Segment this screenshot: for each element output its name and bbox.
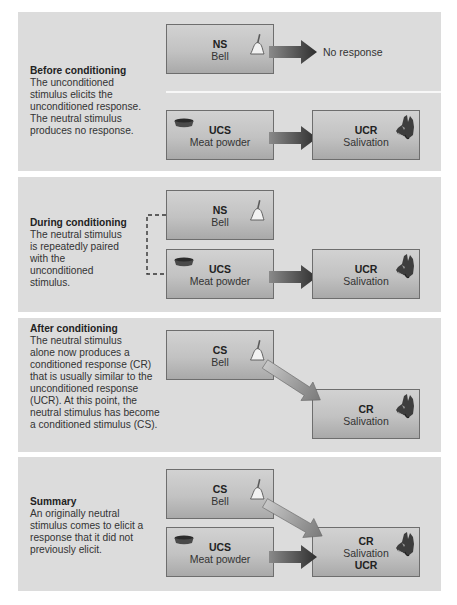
desc-line: (UCR). At this point, the: [30, 395, 160, 407]
dog-head-icon: [396, 532, 415, 557]
panel-title: Summary: [30, 496, 143, 508]
box-name: Salivation: [343, 275, 389, 287]
panel-before-conditioning: Before conditioning The unconditioned st…: [18, 12, 441, 171]
box-name: Bell: [211, 216, 229, 228]
box-code: UCS: [167, 541, 273, 553]
desc-line: with the: [30, 253, 127, 265]
desc-line: neutral stimulus has become: [30, 407, 160, 419]
desc-line: unconditioned response.: [30, 101, 141, 113]
cs-bell-box: CSBell: [166, 330, 274, 380]
desc-line: that is usually similar to the: [30, 371, 160, 383]
desc-line: stimulus.: [30, 277, 127, 289]
box-name: Meat powder: [190, 553, 251, 565]
ucr-salivation-box: UCRSalivation: [312, 249, 420, 299]
desc-line: The neutral stimulus: [30, 229, 127, 241]
box-name: Salivation: [343, 136, 389, 148]
bell-icon: [250, 34, 265, 55]
desc-line: stimulus elicits the: [30, 89, 141, 101]
box-code: UCS: [167, 124, 273, 136]
box-name: Meat powder: [190, 136, 251, 148]
ucs-meat-powder-box: UCSMeat powder: [166, 249, 274, 299]
dog-head-icon: [396, 254, 415, 279]
desc-line: unconditioned: [30, 265, 127, 277]
arrow-cs-to-cr: [261, 497, 331, 547]
arrow-to-no-response: [269, 40, 319, 64]
panel-title: During conditioning: [30, 217, 127, 229]
desc-line: The neutral stimulus: [30, 113, 141, 125]
box-name: Bell: [211, 50, 229, 62]
ucs-meat-powder-box: UCSMeat powder: [166, 110, 274, 160]
desc-line: unconditioned response: [30, 383, 160, 395]
arrow-ucs-to-cr: [269, 545, 319, 569]
arrow-cs-to-cr: [261, 358, 331, 408]
panel-description: Before conditioning The unconditioned st…: [30, 65, 141, 137]
desc-line: produces no response.: [30, 125, 141, 137]
desc-line: is repeatedly paired: [30, 241, 127, 253]
desc-line: stimulus comes to elicit a: [30, 520, 143, 532]
ucs-meat-powder-box: UCSMeat powder: [166, 527, 274, 577]
panel-after-conditioning: After conditioning The neutral stimulus …: [18, 318, 441, 452]
panel-title: Before conditioning: [30, 65, 141, 77]
panel-description: After conditioning The neutral stimulus …: [30, 323, 160, 431]
panel-summary: Summary An originally neutral stimulus c…: [18, 457, 441, 591]
box-code: UCS: [167, 263, 273, 275]
panel-description: Summary An originally neutral stimulus c…: [30, 496, 143, 556]
panel-description: During conditioning The neutral stimulus…: [30, 217, 127, 289]
desc-line: The unconditioned: [30, 77, 141, 89]
ns-bell-box: NSBell: [166, 190, 274, 240]
bell-icon: [250, 200, 265, 221]
desc-line: An originally neutral: [30, 508, 143, 520]
panel-title: After conditioning: [30, 323, 160, 335]
box-name: Bell: [211, 356, 229, 368]
box-name: Bell: [211, 495, 229, 507]
desc-line: previously elicit.: [30, 544, 143, 556]
panel-during-conditioning: During conditioning The neutral stimulus…: [18, 177, 441, 312]
cs-bell-box: CSBell: [166, 469, 274, 519]
desc-line: response that it did not: [30, 532, 143, 544]
ns-bell-box: NSBell: [166, 24, 274, 74]
desc-line: conditioned response (CR): [30, 359, 160, 371]
box-code-secondary: UCR: [313, 559, 419, 571]
desc-line: a conditioned stimulus (CS).: [30, 419, 160, 431]
dog-head-icon: [396, 115, 415, 140]
no-response-label: No response: [323, 46, 383, 58]
divider: [166, 91, 441, 93]
desc-line: alone now produces a: [30, 347, 160, 359]
desc-line: The neutral stimulus: [30, 335, 160, 347]
dog-head-icon: [396, 394, 415, 419]
box-name: Salivation: [343, 415, 389, 427]
ucr-salivation-box: UCRSalivation: [312, 110, 420, 160]
box-name: Meat powder: [190, 275, 251, 287]
